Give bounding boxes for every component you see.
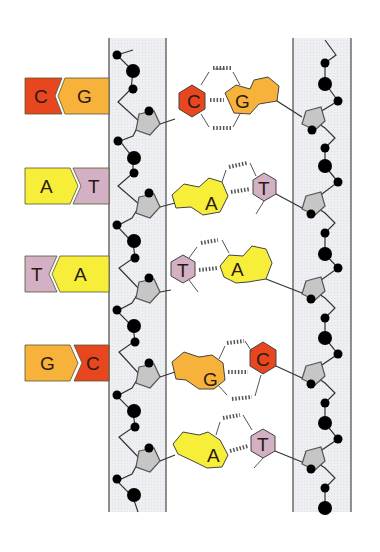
svg-text:A: A [207, 445, 220, 466]
legend-pair-at: A T [25, 168, 109, 204]
legend-left-base: C [34, 86, 48, 107]
dna-diagram: C G A T T A G C C G [0, 0, 380, 552]
legend-left-base: A [40, 176, 53, 197]
legend-pair-ta: T A [25, 256, 109, 292]
svg-text:A: A [205, 193, 218, 214]
base-pair-gc: G C [160, 341, 302, 399]
legend-left-base: G [40, 353, 55, 374]
legend-pair-cg: C G [25, 78, 109, 114]
svg-text:T: T [257, 434, 269, 455]
legend-right-base: G [77, 86, 92, 107]
adenine-base [173, 432, 228, 468]
base-pair-at-2: A T [160, 415, 302, 468]
svg-text:G: G [235, 91, 250, 112]
legend-pair-gc: G C [25, 345, 109, 381]
base-pair-cg: C G [160, 68, 302, 128]
svg-text:C: C [256, 349, 270, 370]
guanine-base [225, 77, 279, 114]
hydrogen-bonds [222, 163, 256, 192]
legend-right-base: T [88, 176, 100, 197]
adenine-base [172, 178, 228, 215]
svg-text:A: A [231, 259, 244, 280]
base-pair-at: A T [160, 163, 302, 215]
base-pair-ta: T A [160, 240, 302, 293]
svg-text:G: G [203, 369, 218, 390]
legend-left-base: T [31, 264, 43, 285]
svg-text:C: C [187, 91, 201, 112]
legend-right-base: A [74, 264, 87, 285]
left-backbone-strand [109, 38, 166, 512]
svg-text:T: T [258, 178, 270, 199]
svg-text:T: T [177, 260, 189, 281]
legend-right-base: C [86, 353, 100, 374]
